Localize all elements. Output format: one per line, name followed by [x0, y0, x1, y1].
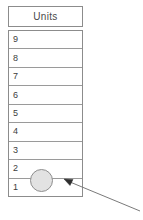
unit-row-label: 8 — [9, 54, 18, 63]
unit-row[interactable]: 9 — [9, 31, 82, 49]
unit-row-label: 5 — [9, 109, 18, 118]
unit-row-label: 3 — [9, 146, 18, 155]
unit-row-label: 2 — [9, 164, 18, 173]
counter-token-icon[interactable] — [30, 169, 53, 192]
unit-row-label: 4 — [9, 127, 18, 136]
unit-row-label: 7 — [9, 72, 18, 81]
unit-row-label: 6 — [9, 91, 18, 100]
unit-row-label: 9 — [9, 35, 18, 44]
unit-row[interactable]: 6 — [9, 86, 82, 104]
units-place-value-diagram: Units 9 8 7 6 5 4 3 2 1 — [0, 0, 143, 220]
unit-row[interactable]: 4 — [9, 123, 82, 141]
unit-row[interactable]: 8 — [9, 49, 82, 67]
unit-row[interactable]: 3 — [9, 142, 82, 160]
unit-row-label: 1 — [9, 183, 18, 192]
unit-row[interactable]: 5 — [9, 105, 82, 123]
unit-row[interactable]: 7 — [9, 68, 82, 86]
units-header-cell: Units — [8, 6, 83, 27]
units-header-label: Units — [33, 12, 57, 22]
